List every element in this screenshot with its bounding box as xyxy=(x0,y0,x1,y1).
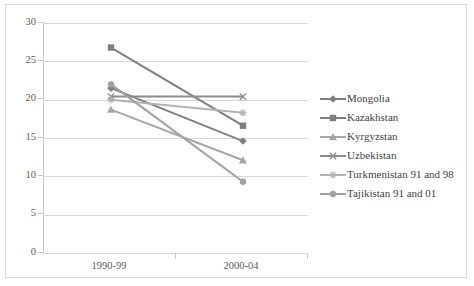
legend-item-kyrgyzstan[interactable]: Kyrgyzstan xyxy=(319,127,467,146)
legend-label: Mongolia xyxy=(347,93,390,104)
legend-marker-x-icon xyxy=(319,149,347,163)
legend-item-tajikistan[interactable]: Tajikistan 91 and 01 xyxy=(319,184,467,203)
legend-marker-diamond-icon xyxy=(319,92,347,106)
legend-item-uzbekistan[interactable]: Uzbekistan xyxy=(319,146,467,165)
legend-marker-circle-icon xyxy=(319,187,347,201)
legend-label: Kazakhstan xyxy=(347,112,398,123)
legend-label: Kyrgyzstan xyxy=(347,131,398,142)
legend-marker-square-icon xyxy=(319,111,347,125)
chart-legend: Mongolia Kazakhstan Kyrgyzstan Uzbekista… xyxy=(319,89,467,203)
legend-item-kazakhstan[interactable]: Kazakhstan xyxy=(319,108,467,127)
chart-frame: 30 25 20 15 10 5 0 1990-99 2000-04 Mongo… xyxy=(5,4,467,278)
legend-label: Turkmenistan 91 and 98 xyxy=(347,169,454,180)
series-turkmenistan xyxy=(107,96,247,117)
legend-label: Uzbekistan xyxy=(347,150,396,161)
legend-item-mongolia[interactable]: Mongolia xyxy=(319,89,467,108)
legend-item-turkmenistan[interactable]: Turkmenistan 91 and 98 xyxy=(319,165,467,184)
legend-marker-triangle-icon xyxy=(319,130,347,144)
legend-label: Tajikistan 91 and 01 xyxy=(347,188,436,199)
legend-marker-asterisk-icon xyxy=(319,168,347,182)
